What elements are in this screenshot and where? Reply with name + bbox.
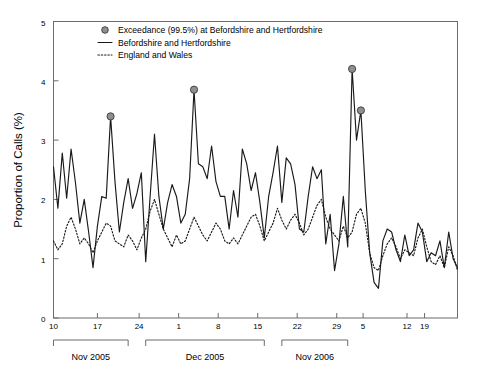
series-line-england-wales (54, 199, 458, 270)
x-axis-group-label: Dec 2005 (186, 352, 225, 362)
legend-label: England and Wales (118, 50, 192, 60)
chart-legend: Exceedance (99.5%) at Befordshire and He… (98, 25, 323, 60)
y-tick-label: 0 (41, 315, 46, 324)
data-series (54, 69, 458, 288)
x-tick-label: 24 (135, 322, 144, 331)
series-line-beds-herts (54, 69, 458, 288)
x-axis-group-label: Nov 2006 (296, 352, 335, 362)
y-axis-label-text: Proportion of Calls (%) (12, 112, 24, 228)
x-tick-label: 29 (332, 322, 341, 331)
chart-figure: 012345 Proportion of Calls (%) 101724181… (0, 0, 478, 369)
exceedance-marker (107, 113, 114, 120)
x-axis-group-brackets: Nov 2005Dec 2005Nov 2006 (54, 340, 348, 362)
x-tick-label: 1 (176, 322, 181, 331)
y-axis-ticks: 012345 (41, 19, 58, 325)
legend-label: Exceedance (99.5%) at Befordshire and He… (118, 25, 323, 35)
exceedance-marker (190, 86, 197, 93)
x-tick-label: 5 (361, 322, 366, 331)
x-axis-group-label: Nov 2005 (72, 352, 111, 362)
x-tick-label: 15 (253, 322, 262, 331)
exceedance-marker (349, 65, 356, 72)
x-tick-label: 8 (216, 322, 221, 331)
exceedance-marker (357, 107, 364, 114)
x-tick-label: 17 (93, 322, 102, 331)
y-axis-title: Proportion of Calls (%) (12, 112, 24, 228)
x-tick-label: 22 (293, 322, 302, 331)
x-axis-ticks: 1017241815222951219 (49, 313, 430, 331)
y-tick-label: 5 (41, 19, 46, 28)
x-tick-label: 19 (420, 322, 429, 331)
y-tick-label: 1 (41, 256, 46, 265)
legend-marker-exceedance (102, 27, 109, 34)
x-tick-label: 10 (49, 322, 58, 331)
exceedance-markers (107, 65, 365, 120)
y-tick-label: 3 (41, 137, 46, 146)
chart-svg: 012345 Proportion of Calls (%) 101724181… (0, 0, 478, 369)
y-tick-label: 2 (41, 196, 46, 205)
legend-label: Befordshire and Hertfordshire (118, 38, 231, 48)
y-tick-label: 4 (41, 78, 46, 87)
x-tick-label: 12 (403, 322, 412, 331)
